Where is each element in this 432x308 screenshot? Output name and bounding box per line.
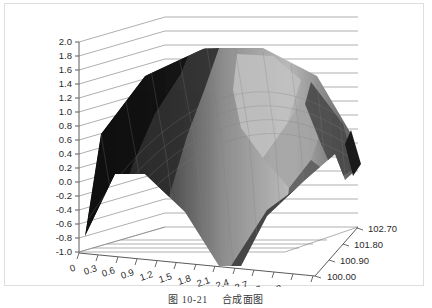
depth-tick-label: 100.90 [340,255,369,266]
chart-frame: 0 0.3 0.6 0.9 1.2 1.5 1.8 2.1 2.4 2.7 3 … [4,3,424,286]
value-tick-label: 1.8 [59,50,72,61]
value-tick-label: 2.0 [59,36,72,47]
figure-caption: 图 10-21合成面图 [0,291,432,308]
value-tick-label: 0.8 [59,120,72,131]
figure-page: 0 0.3 0.6 0.9 1.2 1.5 1.8 2.1 2.4 2.7 3 … [0,0,432,308]
x-tick-label: 0 [68,262,76,274]
x-tick-label: 2.1 [195,274,211,287]
value-tick-label: -1.0 [56,246,72,257]
depth-tick-label: 101.80 [354,239,383,250]
depth-tick-label: 100.00 [327,271,356,282]
value-tick-label: -0.4 [56,204,72,215]
x-tick-label: 3.6 [285,284,301,287]
value-tick-label: 0.2 [59,162,72,173]
value-tick-label: 1.0 [59,106,72,117]
value-tick-label: -0.8 [56,232,72,243]
x-tick-label: 3 [254,283,262,287]
value-tick-label: 0.6 [59,134,72,145]
depth-axis-tick-labels: 100.00 100.90 101.80 102.70 [327,223,397,282]
value-tick-label: 0.4 [59,148,72,159]
value-tick-label: 0.0 [59,176,72,187]
x-tick-label: 0.6 [100,264,116,279]
x-tick-label: 2.7 [233,278,249,287]
value-tick-label: 1.6 [59,64,72,75]
x-tick-label: 1.2 [138,268,154,283]
value-axis-tick-labels: 2.0 1.8 1.6 1.4 1.2 1.0 0.8 0.6 0.4 0.2 … [56,36,72,257]
x-tick-label: 3.3 [267,282,283,287]
value-tick-label: 1.4 [59,78,72,89]
value-axis-ticks [75,42,79,252]
x-tick-label: 0.3 [82,262,98,277]
figure-caption-title: 合成面图 [222,294,264,305]
value-tick-label: -0.2 [56,190,72,201]
x-axis-tick-labels: 0 0.3 0.6 0.9 1.2 1.5 1.8 2.1 2.4 2.7 3 … [68,262,301,287]
value-tick-label: -0.6 [56,218,72,229]
x-tick-label: 2.4 [214,276,230,287]
x-tick-label: 0.9 [119,266,135,281]
value-tick-label: 1.2 [59,92,72,103]
surface-chart: 0 0.3 0.6 0.9 1.2 1.5 1.8 2.1 2.4 2.7 3 … [5,4,425,287]
figure-caption-number: 图 10-21 [168,294,207,305]
x-tick-label: 1.5 [157,270,173,285]
depth-tick-label: 102.70 [368,223,397,234]
x-tick-label: 1.8 [176,272,192,287]
